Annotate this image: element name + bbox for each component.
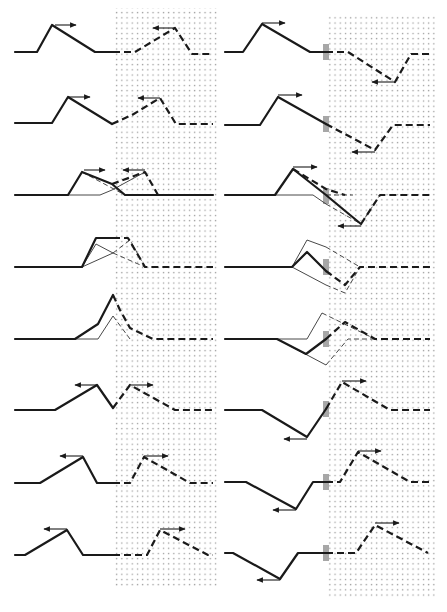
- incident-pulse: [15, 97, 112, 124]
- incident-pulse: [15, 385, 113, 410]
- incident-pulse: [225, 97, 326, 125]
- incident-pulse: [225, 482, 326, 509]
- incident-pulse: [225, 252, 326, 271]
- left-medium-stipple-region: [113, 8, 217, 588]
- right-medium-stipple-region: [326, 15, 436, 597]
- component-pulse-incident: [277, 313, 326, 365]
- incident-pulse: [225, 409, 326, 437]
- incident-pulse: [15, 25, 113, 52]
- incident-pulse: [225, 24, 326, 52]
- incident-pulse: [225, 553, 326, 579]
- wave-pulse-diagram: [0, 0, 447, 612]
- incident-pulse: [15, 295, 113, 339]
- incident-pulse: [15, 457, 113, 483]
- incident-pulse: [225, 339, 326, 354]
- component-pulse-incident: [275, 195, 326, 204]
- incident-pulse: [15, 530, 113, 555]
- incident-pulse: [15, 238, 113, 267]
- figure-canvas: [0, 0, 447, 612]
